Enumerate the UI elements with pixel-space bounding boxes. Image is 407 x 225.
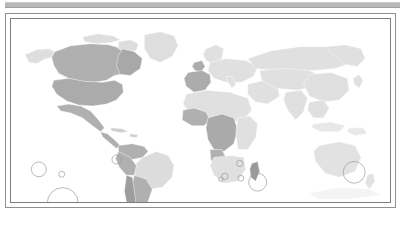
world-map[interactable] (11, 19, 390, 202)
figure-frame-inner (10, 18, 391, 203)
top-gray-bar (5, 2, 400, 8)
figure-frame-outer (5, 13, 396, 208)
figure-page (0, 0, 407, 225)
